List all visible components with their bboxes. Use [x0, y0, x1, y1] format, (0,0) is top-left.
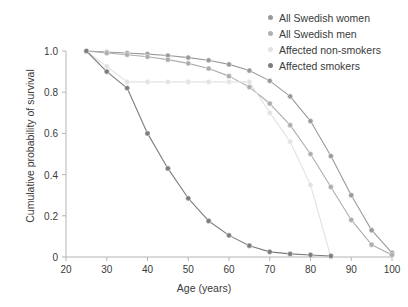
series-affected-non-smokers: [84, 48, 334, 259]
legend-item-all-swedish-men: All Swedish men: [268, 26, 406, 41]
data-point-marker: [125, 79, 130, 84]
data-point-marker: [104, 69, 109, 74]
survival-chart: All Swedish women All Swedish men Affect…: [0, 0, 408, 307]
chart-legend: All Swedish women All Swedish men Affect…: [268, 10, 406, 74]
x-tick-label: 70: [264, 264, 275, 275]
legend-label-women: All Swedish women: [279, 12, 370, 24]
data-point-marker: [226, 74, 231, 79]
data-point-marker: [186, 196, 191, 201]
data-point-marker: [308, 252, 313, 257]
x-tick-label: 50: [183, 264, 194, 275]
y-tick-label: 1.0: [26, 46, 58, 57]
data-point-marker: [206, 218, 211, 223]
data-point-marker: [247, 68, 252, 73]
data-point-marker: [328, 153, 333, 158]
x-axis-title: Age (years): [0, 282, 408, 294]
data-point-marker: [389, 252, 394, 257]
data-point-marker: [186, 55, 191, 60]
data-point-marker: [308, 151, 313, 156]
data-point-marker: [145, 131, 150, 136]
data-point-marker: [165, 57, 170, 62]
data-point-marker: [226, 233, 231, 238]
y-tick-label: 0.4: [26, 169, 58, 180]
data-point-marker: [369, 228, 374, 233]
legend-label-non-smokers: Affected non-smokers: [279, 44, 381, 56]
legend-item-all-swedish-women: All Swedish women: [268, 10, 406, 25]
legend-item-affected-smokers: Affected smokers: [268, 58, 406, 73]
x-tick-label: 80: [305, 264, 316, 275]
x-tick-label: 90: [346, 264, 357, 275]
data-point-marker: [226, 62, 231, 67]
data-point-marker: [206, 58, 211, 63]
data-point-marker: [84, 48, 89, 53]
data-point-marker: [369, 242, 374, 247]
data-point-marker: [125, 85, 130, 90]
y-tick-label: 0: [26, 252, 58, 263]
data-point-marker: [267, 78, 272, 83]
data-point-marker: [349, 193, 354, 198]
x-tick-label: 40: [142, 264, 153, 275]
y-tick-label: 0.2: [26, 210, 58, 221]
data-point-marker: [288, 251, 293, 256]
data-point-marker: [247, 79, 252, 84]
legend-label-men: All Swedish men: [279, 28, 357, 40]
data-point-marker: [328, 253, 333, 258]
data-point-marker: [308, 182, 313, 187]
data-point-marker: [104, 50, 109, 55]
data-point-marker: [288, 123, 293, 128]
series-all-swedish-women: [84, 48, 395, 255]
data-point-marker: [288, 94, 293, 99]
legend-swatch-non-smokers: [268, 47, 273, 52]
data-point-marker: [125, 52, 130, 57]
data-point-marker: [267, 101, 272, 106]
data-point-marker: [186, 61, 191, 66]
data-point-marker: [267, 249, 272, 254]
legend-swatch-men: [268, 31, 273, 36]
x-tick-label: 60: [223, 264, 234, 275]
x-tick-label: 100: [384, 264, 401, 275]
series-all-swedish-men: [84, 48, 395, 257]
data-point-marker: [226, 79, 231, 84]
data-point-marker: [308, 118, 313, 123]
data-point-marker: [186, 79, 191, 84]
data-point-marker: [145, 54, 150, 59]
data-point-marker: [247, 243, 252, 248]
legend-item-affected-non-smokers: Affected non-smokers: [268, 42, 406, 57]
data-point-marker: [165, 79, 170, 84]
y-axis-title: Cumulative probability of survival: [24, 36, 36, 256]
data-point-marker: [206, 66, 211, 71]
y-tick-label: 0.6: [26, 128, 58, 139]
x-tick-label: 30: [101, 264, 112, 275]
legend-swatch-women: [268, 15, 273, 20]
data-point-marker: [104, 64, 109, 69]
legend-swatch-smokers: [268, 63, 273, 68]
data-point-marker: [206, 79, 211, 84]
data-point-marker: [267, 110, 272, 115]
data-point-marker: [165, 166, 170, 171]
data-point-marker: [349, 217, 354, 222]
x-tick-label: 20: [60, 264, 71, 275]
data-point-marker: [288, 139, 293, 144]
data-point-marker: [328, 184, 333, 189]
data-point-marker: [145, 79, 150, 84]
legend-label-smokers: Affected smokers: [279, 60, 360, 72]
y-tick-label: 0.8: [26, 87, 58, 98]
